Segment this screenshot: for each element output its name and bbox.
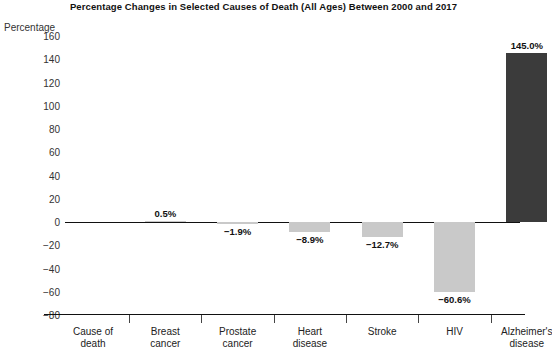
y-tick-label: −60 <box>18 286 60 297</box>
y-tick-label: 40 <box>18 170 60 181</box>
x-label-line: Prostate <box>219 326 256 338</box>
x-category-hiv: HIV <box>446 326 463 338</box>
x-axis-title: Cause ofdeath <box>73 326 113 349</box>
bar-value-label: −60.6% <box>438 294 471 305</box>
x-tick-mark <box>491 315 492 323</box>
y-tick-label: 100 <box>18 100 60 111</box>
x-category-breast-cancer: Breastcancer <box>150 326 180 349</box>
x-label-line: disease <box>501 338 552 350</box>
x-label-line: death <box>73 338 113 350</box>
bar-value-label: 0.5% <box>154 208 176 219</box>
bar-value-label: −12.7% <box>366 239 399 250</box>
x-axis-line <box>44 314 525 315</box>
bar-prostate-cancer[interactable] <box>217 222 258 224</box>
y-tick-label: 80 <box>18 124 60 135</box>
bar-value-label: −8.9% <box>296 234 323 245</box>
bar-alzheimer-s-disease[interactable] <box>506 53 547 222</box>
bar-stroke[interactable] <box>362 222 403 237</box>
y-axis-ticks: 160140120100806040200−20−40−60−80 <box>14 36 60 315</box>
x-label-line: Heart <box>293 326 327 338</box>
x-tick-mark <box>274 315 275 323</box>
x-label-line: cancer <box>219 338 256 350</box>
x-label-line: Breast <box>150 326 180 338</box>
x-label-line: Stroke <box>368 326 397 338</box>
x-category-heart-disease: Heartdisease <box>293 326 327 349</box>
plot-area: 0.5%−1.9%−8.9%−12.7%−60.6%145.0% <box>65 36 520 315</box>
bar-heart-disease[interactable] <box>289 222 330 232</box>
y-tick-label: 140 <box>18 54 60 65</box>
y-tick-label: −40 <box>18 263 60 274</box>
y-tick-label: −80 <box>18 310 60 321</box>
x-tick-mark <box>346 315 347 323</box>
y-tick-label: −20 <box>18 240 60 251</box>
bar-value-label: 145.0% <box>511 40 543 51</box>
bar-value-label: −1.9% <box>224 226 251 237</box>
y-tick-label: 0 <box>18 217 60 228</box>
y-tick-label: 20 <box>18 193 60 204</box>
x-tick-mark <box>129 315 130 323</box>
x-label-line: cancer <box>150 338 180 350</box>
y-tick-label: 60 <box>18 147 60 158</box>
x-label-line: Alzheimer's <box>501 326 552 338</box>
x-tick-mark <box>418 315 419 323</box>
x-category-prostate-cancer: Prostatecancer <box>219 326 256 349</box>
x-category-stroke: Stroke <box>368 326 397 338</box>
chart-title: Percentage Changes in Selected Causes of… <box>0 1 527 12</box>
bar-hiv[interactable] <box>434 222 475 292</box>
x-tick-mark <box>201 315 202 323</box>
x-label-line: HIV <box>446 326 463 338</box>
y-tick-label: 160 <box>18 31 60 42</box>
x-category-alzheimer-s-disease: Alzheimer'sdisease <box>501 326 552 349</box>
x-label-line: disease <box>293 338 327 350</box>
x-label-line: Cause of <box>73 326 113 338</box>
bar-breast-cancer[interactable] <box>145 221 186 222</box>
y-tick-label: 120 <box>18 77 60 88</box>
